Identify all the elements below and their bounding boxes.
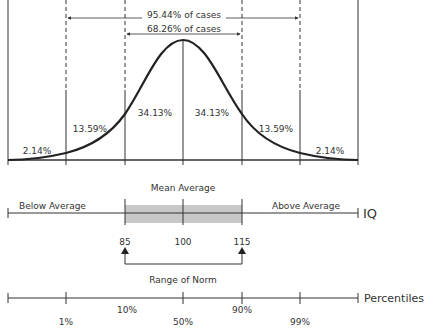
iq-tick-115: 115 (233, 237, 250, 247)
percentiles-axis-label: Percentiles (364, 292, 424, 305)
arrow-up-icon (238, 247, 246, 254)
percentile-tick-99: 99% (290, 317, 310, 327)
segment-label-3: 34.13% (138, 108, 173, 118)
range-of-norm-label: Range of Norm (149, 275, 216, 285)
percentile-tick-50: 50% (173, 317, 193, 327)
above-average-label: Above Average (272, 201, 341, 211)
percentile-tick-90: 90% (232, 305, 252, 315)
segment-label-4: 34.13% (195, 108, 230, 118)
segment-label-6: 2.14% (316, 146, 345, 156)
segment-label-1: 2.14% (23, 146, 52, 156)
segment-label-5: 13.59% (259, 124, 294, 134)
normal-distribution-diagram: 95.44% of cases 68.26% of cases 2.14% 13… (0, 0, 426, 334)
mean-average-label: Mean Average (151, 183, 216, 193)
norm-bracket (125, 252, 242, 264)
segment-label-2: 13.59% (73, 124, 108, 134)
percentile-tick-10: 10% (117, 305, 137, 315)
bracket-95-label: 95.44% of cases (147, 10, 221, 20)
arrow-up-icon (121, 247, 129, 254)
bracket-68-label: 68.26% of cases (147, 24, 221, 34)
iq-tick-85: 85 (119, 237, 130, 247)
percentile-tick-1: 1% (59, 317, 74, 327)
iq-axis-label: IQ (363, 206, 377, 221)
below-average-label: Below Average (19, 201, 86, 211)
iq-tick-100: 100 (174, 237, 191, 247)
